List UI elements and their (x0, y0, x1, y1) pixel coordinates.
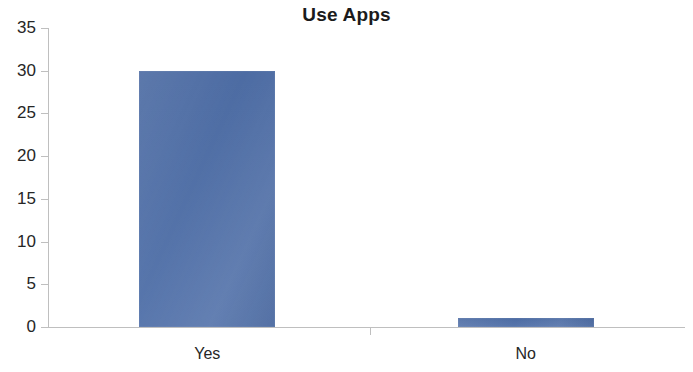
y-axis-tick (41, 242, 48, 243)
x-axis-tick-label: Yes (147, 344, 267, 363)
chart-title: Use Apps (0, 3, 693, 26)
y-axis-tick-label: 20 (0, 147, 36, 164)
y-axis-line (48, 28, 49, 328)
y-axis-tick (41, 113, 48, 114)
x-axis-line (48, 327, 685, 328)
y-axis-tick (41, 284, 48, 285)
y-axis-tick-label: 10 (0, 233, 36, 250)
bar-no (458, 318, 594, 327)
y-axis-tick-label: 30 (0, 62, 36, 79)
y-axis-tick (41, 327, 48, 328)
y-axis-tick (41, 156, 48, 157)
y-axis-tick (41, 71, 48, 72)
y-axis-tick-label: 5 (0, 275, 36, 292)
y-axis-tick (41, 199, 48, 200)
x-axis-tick-label: No (466, 344, 586, 363)
y-axis-tick-label: 15 (0, 190, 36, 207)
y-axis-tick-label: 0 (0, 318, 36, 335)
bar-yes (139, 71, 275, 327)
y-axis-tick-label: 35 (0, 19, 36, 36)
y-axis-tick (41, 28, 48, 29)
x-axis-separator-tick (370, 328, 371, 335)
bar-chart: Use Apps 05101520253035 YesNo (0, 0, 693, 372)
y-axis-tick-label: 25 (0, 104, 36, 121)
